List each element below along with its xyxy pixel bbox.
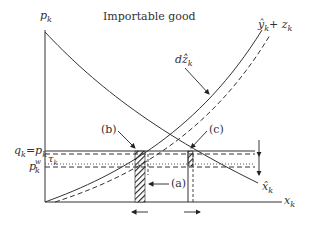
demand-curve-label: x̂k [262, 180, 273, 195]
y-axis-label: pk [40, 9, 52, 24]
pointer-c [191, 131, 207, 148]
domestic-price-label: qk=pk [14, 144, 47, 159]
tariff-label: τk [48, 153, 58, 167]
shift-label: dẑk [175, 53, 193, 68]
annotation-a: (a) [171, 177, 186, 190]
x-axis-label: xk [284, 194, 295, 209]
chart-title: Importable good [103, 10, 196, 23]
shift-pointer [185, 68, 209, 94]
pointer-b [118, 131, 135, 148]
supply-curve [45, 30, 262, 202]
demand-curve [45, 32, 258, 183]
world-price-label: pwk [29, 158, 41, 175]
supply-curve-label: ŷk+ zk [257, 18, 293, 33]
annotation-b: (b) [101, 123, 117, 136]
supply-curve-shifted [55, 35, 270, 202]
annotation-c: (c) [209, 123, 224, 136]
importable-good-diagram: Importable good pk xk ŷk+ zk x̂k dẑk qk=… [0, 0, 310, 226]
